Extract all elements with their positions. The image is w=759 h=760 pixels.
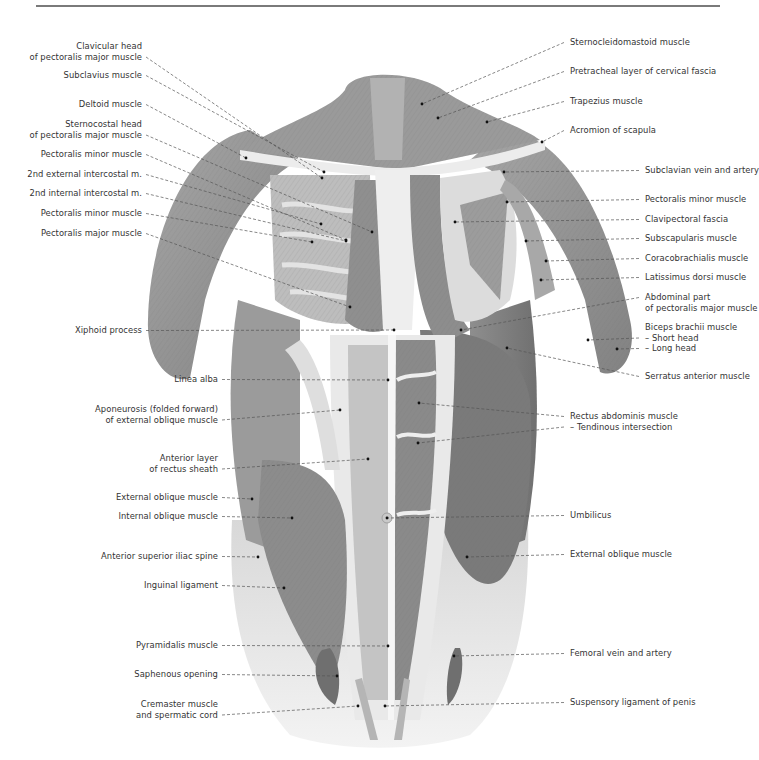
label-saphenous-opening: Saphenous opening [134, 669, 218, 680]
label-xiphoid-process: Xiphoid process [75, 325, 142, 336]
label-line: Aponeurosis (folded forward) [95, 404, 218, 415]
label-line: Acromion of scapula [570, 125, 656, 136]
label-pectoralis-minor-muscle: Pectoralis minor muscle [41, 149, 142, 160]
label-line: Suspensory ligament of penis [570, 697, 696, 708]
label-line: Latissimus dorsi muscle [645, 272, 746, 283]
label-line: Pectoralis minor muscle [645, 194, 746, 205]
label-line: Rectus abdominis muscle [570, 411, 678, 422]
label-line: Coracobrachialis muscle [645, 253, 748, 264]
label-line: Linea alba [174, 374, 218, 385]
label-line: – Short head [645, 333, 737, 344]
label-line: 2nd internal intercostal m. [30, 188, 142, 199]
label-line: Pectoralis minor muscle [41, 208, 142, 219]
label-line: Pectoralis major muscle [41, 228, 142, 239]
label-femoral-vein-and-artery: Femoral vein and artery [570, 648, 672, 659]
label-line: Clavipectoral fascia [645, 214, 728, 225]
label-line: of pectoralis major muscle [29, 52, 142, 63]
label-acromion-of-scapula: Acromion of scapula [570, 125, 656, 136]
label-line: External oblique muscle [570, 549, 672, 560]
label-line: Cremaster muscle [136, 699, 218, 710]
label-pretracheal-layer-of-cervical-fascia: Pretracheal layer of cervical fascia [570, 66, 716, 77]
label-line: Subclavius muscle [64, 70, 142, 81]
label-line: of rectus sheath [149, 464, 218, 475]
label-line: Umbilicus [570, 510, 611, 521]
label-line: External oblique muscle [116, 492, 218, 503]
label-umbilicus: Umbilicus [570, 510, 611, 521]
label-line: – Tendinous intersection [570, 422, 678, 433]
label-serratus-anterior-muscle: Serratus anterior muscle [645, 371, 750, 382]
label-line: Anterior layer [149, 453, 218, 464]
label-clavicular-head: Clavicular headof pectoralis major muscl… [29, 41, 142, 62]
label-line: Inguinal ligament [144, 580, 218, 591]
label-suspensory-ligament-of-penis: Suspensory ligament of penis [570, 697, 696, 708]
label-line: of pectoralis major muscle [645, 303, 758, 314]
label-external-oblique-muscle: External oblique muscle [570, 549, 672, 560]
label-line: 2nd external intercostal m. [27, 169, 142, 180]
label-line: Sternocostal head [29, 119, 142, 130]
label-anterior-layer: Anterior layerof rectus sheath [149, 453, 218, 474]
label-line: Pectoralis minor muscle [41, 149, 142, 160]
label-line: Internal oblique muscle [118, 511, 218, 522]
label-abdominal-part: Abdominal partof pectoralis major muscle [645, 292, 758, 313]
label-anterior-superior-iliac-spine: Anterior superior iliac spine [101, 551, 218, 562]
label-line: Pyramidalis muscle [136, 640, 218, 651]
label-pyramidalis-muscle: Pyramidalis muscle [136, 640, 218, 651]
label-subclavian-vein-and-artery: Subclavian vein and artery [645, 165, 759, 176]
label-coracobrachialis-muscle: Coracobrachialis muscle [645, 253, 748, 264]
label-latissimus-dorsi-muscle: Latissimus dorsi muscle [645, 272, 746, 283]
label-linea-alba: Linea alba [174, 374, 218, 385]
label-line: – Long head [645, 343, 737, 354]
label-external-oblique-muscle: External oblique muscle [116, 492, 218, 503]
label-internal-oblique-muscle: Internal oblique muscle [118, 511, 218, 522]
label-line: Saphenous opening [134, 669, 218, 680]
label-line: and spermatic cord [136, 710, 218, 721]
label-deltoid-muscle: Deltoid muscle [79, 99, 142, 110]
label-subscapularis-muscle: Subscapularis muscle [645, 233, 737, 244]
label-line: Pretracheal layer of cervical fascia [570, 66, 716, 77]
label-line: Trapezius muscle [570, 96, 643, 107]
label-line: Subclavian vein and artery [645, 165, 759, 176]
label-line: Serratus anterior muscle [645, 371, 750, 382]
label-line: of external oblique muscle [95, 415, 218, 426]
label-line: Abdominal part [645, 292, 758, 303]
label-line: Biceps brachii muscle [645, 322, 737, 333]
label-line: Anterior superior iliac spine [101, 551, 218, 562]
label-rectus-abdominis-muscle: Rectus abdominis muscle– Tendinous inter… [570, 411, 678, 432]
label-line: of pectoralis major muscle [29, 130, 142, 141]
label-pectoralis-minor-muscle: Pectoralis minor muscle [41, 208, 142, 219]
label-line: Sternocleidomastoid muscle [570, 37, 690, 48]
label-line: Subscapularis muscle [645, 233, 737, 244]
label-line: Femoral vein and artery [570, 648, 672, 659]
label-subclavius-muscle: Subclavius muscle [64, 70, 142, 81]
label-clavipectoral-fascia: Clavipectoral fascia [645, 214, 728, 225]
label-pectoralis-minor-muscle: Pectoralis minor muscle [645, 194, 746, 205]
label-2nd-internal-intercostal-m: 2nd internal intercostal m. [30, 188, 142, 199]
label-line: Deltoid muscle [79, 99, 142, 110]
label-biceps-brachii-muscle: Biceps brachii muscle– Short head– Long … [645, 322, 737, 354]
label-line: Xiphoid process [75, 325, 142, 336]
label-pectoralis-major-muscle: Pectoralis major muscle [41, 228, 142, 239]
label-aponeurosis-folded-forward: Aponeurosis (folded forward)of external … [95, 404, 218, 425]
label-cremaster-muscle: Cremaster muscleand spermatic cord [136, 699, 218, 720]
label-sternocleidomastoid-muscle: Sternocleidomastoid muscle [570, 37, 690, 48]
label-line: Clavicular head [29, 41, 142, 52]
label-trapezius-muscle: Trapezius muscle [570, 96, 643, 107]
label-inguinal-ligament: Inguinal ligament [144, 580, 218, 591]
label-sternocostal-head: Sternocostal headof pectoralis major mus… [29, 119, 142, 140]
label-2nd-external-intercostal-m: 2nd external intercostal m. [27, 169, 142, 180]
